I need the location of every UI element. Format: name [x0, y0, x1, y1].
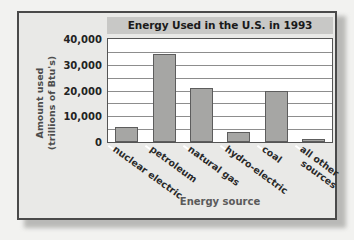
chart-screenshot: Energy Used in the U.S. in 1993 Amount u…	[0, 0, 354, 240]
chart-title-banner: Energy Used in the U.S. in 1993	[107, 17, 333, 34]
x-axis-category-label-line: coal	[260, 143, 284, 165]
gridline	[108, 142, 332, 143]
bar-series	[108, 39, 332, 142]
chart-figure-frame: Energy Used in the U.S. in 1993 Amount u…	[17, 11, 337, 220]
bar	[227, 132, 250, 142]
chart-title: Energy Used in the U.S. in 1993	[107, 17, 333, 34]
y-axis-tick-label: 30,000	[63, 59, 102, 70]
bar	[153, 54, 176, 142]
y-axis-tick-label: 0	[95, 137, 102, 148]
x-axis-category-label: all othersources	[291, 144, 344, 191]
bar	[190, 88, 213, 142]
bar	[302, 139, 325, 142]
y-axis-tick-label: 40,000	[63, 34, 102, 45]
x-axis-title: Energy source	[107, 196, 333, 207]
y-axis-tick-label: 10,000	[63, 111, 102, 122]
bar	[265, 91, 288, 143]
y-axis-title-line1: Amount used	[34, 68, 45, 139]
y-axis-tick-label: 20,000	[63, 85, 102, 96]
y-axis-tick-labels: 40,00030,00020,00010,0000	[49, 38, 105, 143]
bar	[115, 127, 138, 142]
x-axis-category-label-line: hydro-electric	[223, 143, 290, 196]
x-axis-category-label: coal	[260, 144, 284, 165]
